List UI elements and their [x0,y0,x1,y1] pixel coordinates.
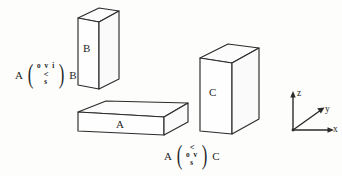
y-axis-line [293,110,321,130]
x-axis-label: x [333,124,338,134]
relation-a-b-stack: o v i < s [37,63,55,87]
relation-a-b-close-paren: ) [59,64,65,85]
relation-a-c-stack-row-3: s [190,160,194,168]
axes-origin-dot [292,129,295,132]
block-c-label: C [209,86,217,98]
relation-a-b-stack-row-3: s [44,79,48,87]
relation-a-c-close-paren: ) [202,145,208,166]
block-c-side-face [232,48,259,134]
block-b-label: B [83,42,91,54]
z-axis-label: z [297,88,301,98]
relation-a-b-open-paren: ( [28,64,34,85]
relation-a-b-right-operand: B [68,70,77,81]
relation-a-c: A ( < o v s ) C [163,144,221,168]
block-a-label: A [116,118,124,130]
relation-a-c-left-operand: A [163,151,173,162]
relation-a-b: A ( o v i < s ) B [14,63,78,87]
block-b-side-face [99,11,119,89]
block-a-shape [78,101,188,135]
y-axis-label: y [325,104,330,114]
relation-a-c-right-operand: C [211,151,220,162]
relation-a-c-stack: < o v s [186,144,198,168]
block-diagram-figure: B A C z y x A ( o v i < s ) B A ( < o v … [0,0,342,176]
z-axis-arrowhead [290,91,295,98]
relation-a-c-open-paren: ( [177,145,183,166]
relation-a-b-left-operand: A [14,70,24,81]
